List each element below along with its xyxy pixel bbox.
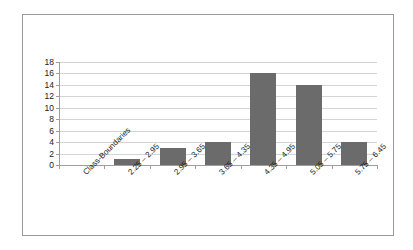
y-axis-tick-mark (56, 142, 60, 143)
y-axis-tick-mark (56, 119, 60, 120)
x-axis-tick-label: 2.95 – 3.65 (173, 171, 179, 177)
y-axis-tick-labels: 024681012141618 (23, 15, 54, 237)
x-axis-tick-mark (150, 165, 151, 169)
y-axis-tick-mark (56, 154, 60, 155)
x-axis-tick-mark (195, 165, 196, 169)
x-axis-tick-label: 3.65 – 4.35 (218, 171, 224, 177)
x-axis-tick-label: Class-Boundaries (82, 171, 88, 177)
chart-frame: 024681012141618 Class-Boundaries2.25 – 2… (22, 14, 394, 236)
y-axis-tick-mark (56, 131, 60, 132)
x-axis-tick-mark (377, 165, 378, 169)
y-axis-tick-label: 10 (45, 104, 54, 113)
y-axis-tick-label: 8 (49, 115, 54, 124)
y-axis-tick-mark (56, 62, 60, 63)
bar[interactable] (250, 73, 276, 165)
y-axis-tick-label: 2 (49, 150, 54, 159)
y-axis-tick-mark (56, 96, 60, 97)
y-axis-tick-mark (56, 85, 60, 86)
y-axis-tick-label: 6 (49, 127, 54, 136)
x-axis-tick-label: 2.25 – 2.95 (127, 171, 133, 177)
x-axis-tick-mark (241, 165, 242, 169)
x-axis-tick-mark (332, 165, 333, 169)
y-axis-tick-label: 14 (45, 81, 54, 90)
y-axis-tick-mark (56, 108, 60, 109)
y-axis-tick-label: 4 (49, 138, 54, 147)
x-axis-tick-label: 5.05 – 5.75 (309, 171, 315, 177)
bar-slot[interactable] (59, 62, 104, 165)
y-axis-tick-mark (56, 165, 60, 166)
bar[interactable] (296, 85, 322, 165)
y-axis-tick-label: 16 (45, 69, 54, 78)
y-axis-tick-label: 12 (45, 92, 54, 101)
x-axis-tick-mark (286, 165, 287, 169)
x-axis-tick-mark (104, 165, 105, 169)
y-axis-tick-label: 18 (45, 58, 54, 67)
y-axis-tick-mark (56, 73, 60, 74)
x-axis-category-labels: Class-Boundaries2.25 – 2.952.95 – 3.653.… (59, 171, 377, 231)
y-axis-tick-label: 0 (49, 161, 54, 170)
x-axis-tick-label: 4.35 – 4.95 (263, 171, 269, 177)
x-axis-tick-label: 5.75 – 6.45 (354, 171, 360, 177)
